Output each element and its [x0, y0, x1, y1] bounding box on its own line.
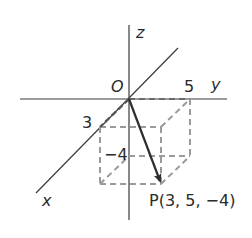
position-vector-arrow: [129, 99, 160, 181]
x-axis-dashed-segment: [100, 99, 129, 127]
y-tick-label: 5: [184, 77, 194, 96]
origin-label: O: [111, 77, 124, 96]
coordinate-diagram: z O 5 y 3 −4 x P(3, 5, −4): [0, 0, 252, 238]
x-axis-label: x: [41, 191, 52, 210]
z-tick-label: −4: [104, 145, 128, 164]
x-tick-label: 3: [82, 113, 92, 132]
point-label: P(3, 5, −4): [149, 191, 235, 210]
y-axis-label: y: [210, 75, 221, 94]
z-axis-label: z: [135, 23, 145, 42]
